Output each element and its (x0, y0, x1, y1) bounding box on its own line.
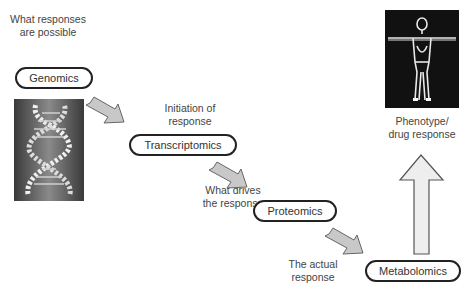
arrow-proteomics-to-metabolomics (325, 228, 363, 254)
arrow-genomics-to-transcriptomics (86, 97, 124, 123)
flow-arrows (0, 0, 476, 293)
arrow-metabolomics-to-phenotype (400, 155, 443, 254)
arrow-transcriptomics-to-proteomics (209, 162, 247, 188)
